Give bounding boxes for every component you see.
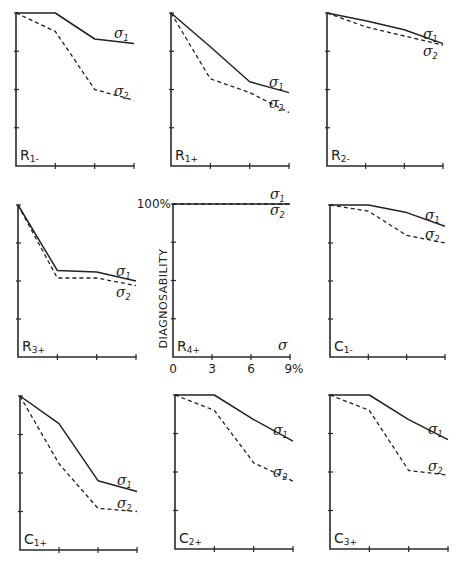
axes	[173, 204, 290, 357]
panel-c1plus: σ1σ2C1+	[18, 396, 137, 553]
x-tick-label: 6	[247, 362, 255, 376]
series-label-sigma1: σ1	[428, 421, 443, 439]
panel-c2plus: σ1σ2C2+	[173, 395, 293, 552]
x-tick-label: 3	[208, 362, 216, 376]
y-axis-label: DIAGNOSABILITY	[157, 249, 170, 349]
series-label-sigma2: σ2	[116, 284, 131, 302]
x-tick-label: 0	[169, 362, 177, 376]
series-label-sigma2: σ2	[428, 458, 443, 476]
panel-r1plus: σ1σ2R1+	[169, 13, 289, 169]
panel-label: C1-	[334, 338, 353, 355]
panel-r3plus: σ1σ2R3+	[16, 205, 136, 360]
panel-label: R1-	[20, 147, 39, 164]
series-label-sigma1: σ1	[114, 25, 129, 43]
small-multiples-figure: σ1σ2R1-σ1σ2R1+σ1σ2R2-σ1σ2R3+σ1σ2R4+DIAGN…	[0, 0, 460, 564]
panel-label: C3+	[334, 530, 357, 547]
series-label-sigma2: σ2	[269, 95, 284, 113]
series-label-sigma2: σ2	[425, 226, 440, 244]
panel-label: R3+	[22, 338, 45, 355]
panel-label: R1+	[175, 147, 198, 164]
panel-label: C2+	[179, 530, 202, 547]
series-label-sigma1: σ1	[117, 472, 132, 490]
panel-r2minus: σ1σ2R2-	[325, 13, 443, 169]
series-label-sigma1: σ1	[425, 207, 440, 225]
panel-r1minus: σ1σ2R1-	[14, 13, 134, 169]
series-label-sigma2: σ2	[114, 83, 129, 101]
panel-label: R2-	[331, 147, 350, 164]
y-tick-label-100: 100%	[137, 197, 171, 211]
panel-r4plus: σ1σ2R4+DIAGNOSABILITY100%0369%σ	[137, 186, 304, 376]
x-axis-label: σ	[278, 337, 288, 353]
series-label-sigma2: σ2	[423, 43, 438, 61]
panel-label: R4+	[177, 338, 200, 355]
panel-label: C1+	[24, 531, 47, 548]
series-label-sigma1: σ1	[423, 26, 438, 44]
axes	[18, 205, 136, 357]
series-label-sigma1: σ1	[116, 263, 131, 281]
x-tick-label: 9%	[284, 362, 303, 376]
series-label-sigma1: σ1	[273, 422, 288, 440]
panel-c1minus: σ1σ2C1-	[328, 205, 445, 360]
panel-c3plus: σ1σ2C3+	[328, 395, 448, 552]
series-label-sigma2: σ2	[273, 464, 288, 482]
series-label-sigma1: σ1	[269, 74, 284, 92]
series-label-sigma2: σ2	[117, 495, 132, 513]
